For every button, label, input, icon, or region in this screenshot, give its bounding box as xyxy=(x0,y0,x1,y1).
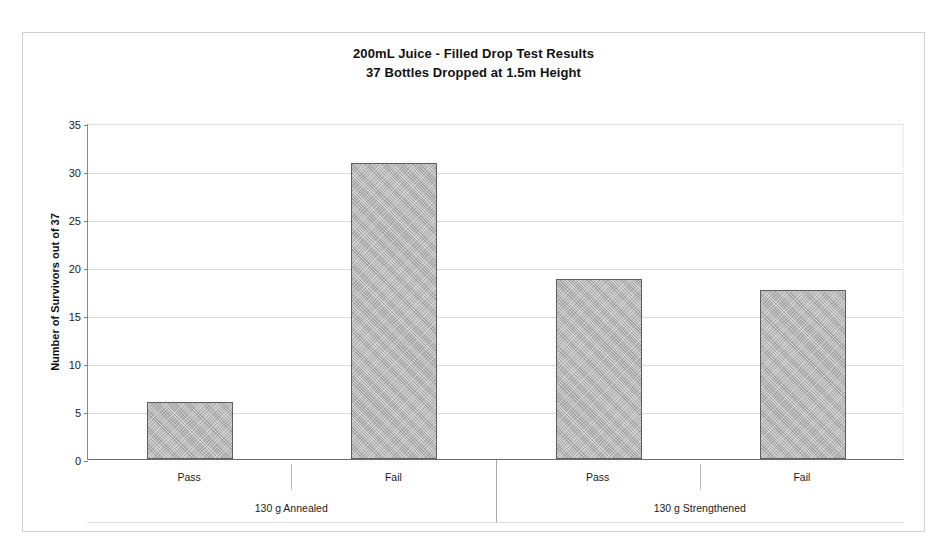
plot-area: 35302520151050 xyxy=(87,124,904,460)
y-axis-tick-label: 20 xyxy=(69,263,81,275)
chart-frame: 200mL Juice - Filled Drop Test Results 3… xyxy=(22,32,925,532)
x-axis-group-label: 130 g Strengthened xyxy=(496,493,905,522)
bar-130-g-strengthened-pass[interactable] xyxy=(556,279,642,459)
x-axis-subcategory-label: Pass xyxy=(87,460,291,493)
y-axis-tick-mark xyxy=(84,365,88,366)
y-axis-tick-mark xyxy=(84,317,88,318)
bar-130-g-annealed-pass[interactable] xyxy=(147,402,233,459)
gridline xyxy=(88,173,903,174)
y-axis-tick-label: 5 xyxy=(75,407,81,419)
y-axis-tick-mark xyxy=(84,269,88,270)
chart-title-line-1: 200mL Juice - Filled Drop Test Results xyxy=(23,45,924,64)
chart-title: 200mL Juice - Filled Drop Test Results 3… xyxy=(23,45,924,83)
gridline xyxy=(88,221,903,222)
y-axis-tick-label: 35 xyxy=(69,119,81,131)
x-axis-group-label: 130 g Annealed xyxy=(87,493,496,522)
y-axis-tick-label: 25 xyxy=(69,215,81,227)
x-axis-label-band: PassFailPassFail 130 g Annealed130 g Str… xyxy=(87,460,904,522)
y-axis-title: Number of Survivors out of 37 xyxy=(47,124,63,460)
bar-130-g-annealed-fail[interactable] xyxy=(351,163,437,459)
x-axis-subcategory-label: Fail xyxy=(291,460,495,493)
y-axis-tick-label: 30 xyxy=(69,167,81,179)
x-axis-separator xyxy=(700,464,701,490)
x-axis-group-separator xyxy=(496,460,497,522)
x-axis-subcategory-label: Fail xyxy=(700,460,904,493)
chart-title-line-2: 37 Bottles Dropped at 1.5m Height xyxy=(23,64,924,83)
x-axis-subcategory-label: Pass xyxy=(496,460,700,493)
gridline xyxy=(88,269,903,270)
y-axis-title-label: Number of Survivors out of 37 xyxy=(49,213,61,371)
y-axis-tick-label: 15 xyxy=(69,311,81,323)
y-axis-tick-mark xyxy=(84,413,88,414)
y-axis-tick-mark xyxy=(84,125,88,126)
bar-130-g-strengthened-fail[interactable] xyxy=(760,290,846,459)
y-axis-tick-mark xyxy=(84,173,88,174)
x-axis-separator xyxy=(291,464,292,490)
x-axis-bottom-rule xyxy=(87,522,904,523)
y-axis-tick-label: 10 xyxy=(69,359,81,371)
y-axis-tick-label: 0 xyxy=(75,455,81,467)
y-axis-tick-mark xyxy=(84,221,88,222)
